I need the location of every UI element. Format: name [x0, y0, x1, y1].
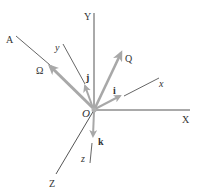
- z-axis-label: z: [80, 153, 85, 164]
- Q-vector: [95, 53, 121, 108]
- X-axis-label: X: [182, 114, 190, 125]
- z-axis-rotating: [90, 143, 92, 163]
- Y-axis-label: Y: [84, 11, 91, 22]
- i-label: i: [113, 85, 116, 96]
- x-axis-rotating: [124, 78, 159, 96]
- A-axis: [16, 36, 50, 65]
- k-label: k: [98, 136, 104, 147]
- j-label: j: [85, 72, 89, 83]
- A-axis-label: A: [6, 34, 14, 45]
- omega-label: Ω: [36, 65, 43, 76]
- x-axis-label: x: [158, 78, 164, 89]
- origin-label: O: [82, 107, 90, 119]
- Z-axis-label: Z: [49, 178, 55, 189]
- diagram-canvas: Y X Z A y x z O Ω Q i j k: [0, 0, 202, 193]
- origin-dot: [92, 108, 97, 113]
- Q-label: Q: [125, 53, 133, 64]
- y-axis-label: y: [54, 42, 60, 53]
- k-vector: [93, 111, 94, 136]
- Z-axis: [56, 110, 94, 174]
- y-axis-rotating: [63, 44, 85, 84]
- coordinate-frame-diagram: Y X Z A y x z O Ω Q i j k: [0, 0, 202, 193]
